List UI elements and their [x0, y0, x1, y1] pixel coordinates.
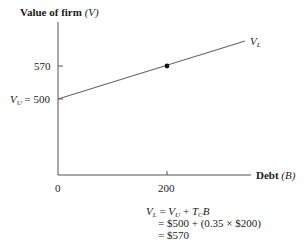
vl-line — [58, 41, 245, 99]
y-axis-title-text: Value of firm — [20, 6, 82, 18]
vl-symbol: V — [250, 35, 257, 47]
vu-symbol: V — [10, 93, 17, 105]
equation-line-2: = $500 + (0.35 × $200) — [158, 217, 261, 229]
data-point-200-570 — [165, 64, 170, 69]
tick-label-200: 200 — [158, 183, 175, 194]
tick-label-vu-500: VU = 500 — [10, 94, 50, 107]
eq-plus: + — [180, 205, 192, 217]
equation-line-3: = $570 — [158, 229, 189, 241]
y-axis-title: Value of firm (V) — [20, 7, 99, 18]
vl-subscript: L — [257, 41, 261, 49]
line-label-vl: VL — [250, 36, 261, 49]
eq-b: B — [203, 205, 210, 217]
x-axis-title-text: Debt — [256, 169, 279, 181]
vu-value: = 500 — [22, 93, 50, 105]
tick-label-0: 0 — [55, 183, 61, 194]
y-axis-title-var: (V) — [85, 6, 99, 18]
eq-equals: = — [157, 205, 169, 217]
x-axis-title: Debt (B) — [256, 170, 295, 181]
x-axis-title-var: (B) — [281, 169, 295, 181]
tick-label-570: 570 — [34, 61, 51, 72]
eq-vl: V — [146, 205, 153, 217]
